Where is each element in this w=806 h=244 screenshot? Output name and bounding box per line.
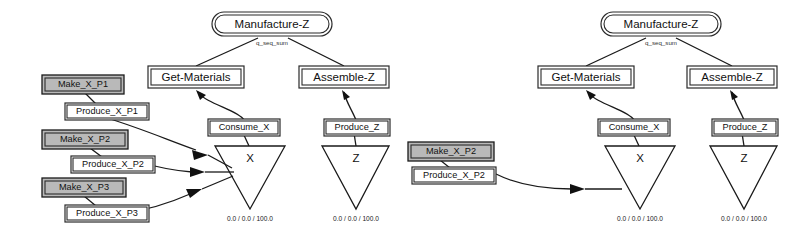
arrowhead-x-p2-2 (570, 184, 585, 194)
edge-label-q-seq-sum: q_seq_sum (256, 39, 288, 46)
resource-label-x: X (246, 152, 254, 164)
node-produce-x-p2-2-label: Produce_X_P2 (423, 170, 485, 180)
edge-label-q-seq-sum-2: q_seq_sum (645, 39, 677, 46)
resource-values-x: 0.0 / 0.0 / 100.0 (227, 215, 273, 222)
right-panel: Manufacture-Z q_seq_sum Get-Materials As… (408, 12, 778, 222)
node-make-x-p2-label: Make_X_P2 (60, 134, 110, 144)
resource-label-x-2: X (636, 152, 644, 164)
node-manufacture-z-label: Manufacture-Z (235, 18, 310, 30)
node-make-x-p1-label: Make_X_P1 (58, 79, 108, 89)
edge-consume-x-to-get-materials-2 (588, 92, 634, 120)
edge-root-to-get-materials (196, 38, 258, 66)
node-manufacture-z-2-label: Manufacture-Z (624, 18, 699, 30)
resource-label-z: Z (352, 152, 359, 164)
node-consume-x-label: Consume_X (219, 122, 270, 132)
arrowhead-x-p3 (186, 189, 202, 198)
edge-root-to-get-materials-2 (586, 38, 646, 66)
node-produce-x-p1-label: Produce_X_P1 (76, 106, 138, 116)
resource-values-x-2: 0.0 / 0.0 / 100.0 (617, 215, 663, 222)
resource-values-z: 0.0 / 0.0 / 100.0 (333, 215, 379, 222)
arrowhead-assemble-z-2 (730, 90, 738, 100)
left-panel: Manufacture-Z q_seq_sum Get-Materials As… (42, 12, 390, 222)
node-consume-x-2-label: Consume_X (609, 122, 660, 132)
resource-values-z-2: 0.0 / 0.0 / 100.0 (721, 215, 767, 222)
node-assemble-z-label: Assemble-Z (313, 71, 374, 83)
arrowhead-x-p2 (190, 167, 205, 177)
edge-p3-tail (202, 176, 233, 189)
edge-root-to-assemble-z-2 (676, 38, 732, 66)
node-produce-z-2-label: Produce_Z (723, 122, 768, 132)
node-assemble-z-2-label: Assemble-Z (701, 71, 762, 83)
edge-consume-x-to-get-materials (198, 92, 244, 120)
node-produce-x-p3-label: Produce_X_P3 (76, 208, 138, 218)
node-get-materials-2-label: Get-Materials (551, 71, 620, 83)
node-produce-z-label: Produce_Z (335, 122, 380, 132)
node-produce-x-p2-label: Produce_X_P2 (82, 159, 144, 169)
edge-produce-x-p2-to-x-2 (496, 174, 572, 189)
node-make-x-p2-2-label: Make_X_P2 (426, 146, 476, 156)
arrowhead-x-p1 (192, 150, 208, 160)
node-get-materials-label: Get-Materials (161, 71, 230, 83)
edge-root-to-assemble-z (288, 38, 344, 66)
resource-label-z-2: Z (740, 152, 747, 164)
node-make-x-p3-label: Make_X_P3 (59, 182, 109, 192)
arrowhead-assemble-z (342, 90, 350, 100)
diagram-canvas: Manufacture-Z q_seq_sum Get-Materials As… (0, 0, 806, 244)
